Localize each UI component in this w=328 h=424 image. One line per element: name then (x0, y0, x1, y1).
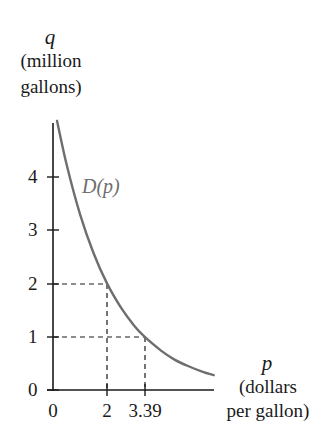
y-tick-label-2: 2 (28, 273, 38, 295)
x-tick-label-3-39: 3.39 (125, 400, 165, 422)
y-axis-title-line2: gallons) (0, 76, 102, 98)
x-axis-symbol: p (255, 352, 279, 374)
y-tick-label-4: 4 (28, 166, 38, 188)
y-tick-label-1: 1 (28, 326, 38, 348)
x-axis-title-line1: (dollars (218, 376, 318, 398)
x-tick-label-0: 0 (43, 400, 63, 422)
dashed-guides (53, 284, 145, 390)
y-tick-label-0: 0 (28, 379, 38, 401)
x-axis-title-line2: per gallon) (212, 400, 324, 422)
x-tick-label-2: 2 (97, 400, 117, 422)
y-tick-label-3: 3 (28, 219, 38, 241)
y-axis-title-line1: (million (0, 50, 102, 72)
curve-label: D(p) (82, 175, 120, 197)
y-axis-symbol: q (38, 26, 62, 48)
